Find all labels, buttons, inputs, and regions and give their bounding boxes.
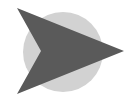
arrow-icon-container [0, 0, 126, 107]
arrow-pointer-icon [0, 0, 126, 107]
